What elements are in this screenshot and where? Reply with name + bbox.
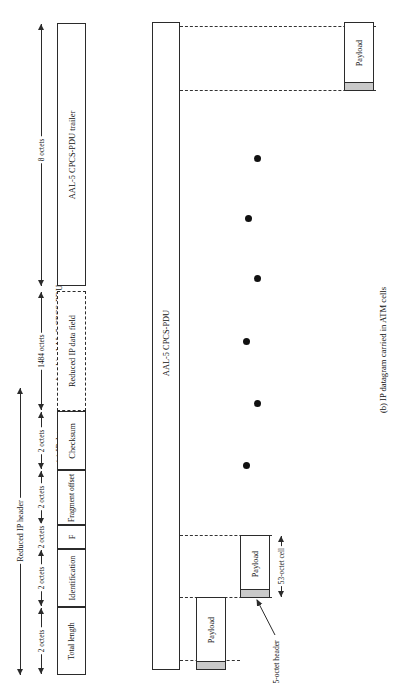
ellipsis-dot-c: [254, 275, 261, 282]
measure-checksum-v: [41, 412, 42, 469]
flags-box-label: F: [67, 535, 76, 540]
measure-checksum-v-label: 2 octets: [37, 428, 46, 455]
ellipsis-dot-b: [245, 215, 252, 222]
fragment-offset-box: Fragment offset: [57, 470, 86, 525]
flags-box: F: [57, 525, 86, 549]
trailer-layer: 8 octets AAL-5 CPCS-PDU trailer 1484 oct…: [0, 0, 413, 691]
measure-flags-v-label: 2 octets: [37, 524, 46, 551]
atm-cell-first-payload-label: Payload: [207, 617, 216, 643]
measure-flags-v: [41, 526, 42, 548]
checksum-box: Checksum: [57, 411, 86, 470]
aal5-cpcs-pdu-strip-label: AAL-5 CPCS-PDU: [162, 310, 171, 376]
identification-box-label: Identification: [67, 555, 76, 600]
atm-cell-last-payload-label: Payload: [355, 40, 364, 66]
measure-total-length-v-label: 2 octets: [37, 628, 46, 655]
aal5-cpcs-pdu-strip: AAL-5 CPCS-PDU: [152, 22, 180, 670]
projection-c: [180, 535, 272, 536]
total-length-box-label: Total length: [67, 622, 76, 659]
total-length-box: Total length: [57, 607, 86, 675]
ellipsis-dot-f: [243, 462, 250, 469]
measure-8-octets: [41, 24, 42, 286]
projection-e: [180, 660, 240, 661]
measure-8-octets-label: 8 octets: [37, 137, 46, 164]
projection-b: [180, 90, 376, 91]
measure-identification-v-label: 2 octets: [37, 565, 46, 592]
measure-53-octet-cell-v-label: 53-octet cell: [277, 546, 286, 586]
atm-cell-middle-header: [241, 589, 269, 597]
caption-panel-a: (a) IP datagram encapsulated in AAL-5 CP…: [54, 249, 64, 499]
aal5-cpcs-pdu-trailer-label: AAL-5 CPCS-PDU trailer: [67, 110, 76, 198]
five-octet-header-label: 5-octet header: [272, 640, 281, 683]
reduced-ip-header-measure: [20, 388, 21, 675]
measure-identification-v: [41, 550, 42, 606]
atm-cell-middle: Payload: [240, 535, 270, 598]
callout-arrow-line: [257, 600, 275, 635]
atm-cell-last-header: [345, 82, 373, 90]
caption-layer: (a) IP datagram encapsulated in AAL-5 CP…: [0, 0, 413, 691]
checksum-box-label: Checksum: [67, 423, 76, 458]
caption-panel-b: (b) IP datagram carried in ATM cells: [378, 225, 388, 475]
reduced-ip-data-field-box: Reduced IP data field: [57, 291, 86, 411]
aal5-cpcs-pdu-trailer-box: AAL-5 CPCS-PDU trailer: [57, 23, 86, 286]
measure-total-length-v: [41, 608, 42, 674]
measure-fragment-offset-v-label: 2 octets: [37, 484, 46, 511]
projection-a: [180, 26, 376, 27]
projection-d: [180, 597, 272, 598]
atm-cell-first-header: [197, 661, 225, 669]
ellipsis-dot-e: [254, 400, 261, 407]
atm-cell-middle-payload-label: Payload: [251, 551, 260, 577]
fragment-offset-box-label: Fragment offset: [67, 473, 75, 521]
reduced-ip-header-measure-label: Reduced IP header: [16, 498, 25, 564]
ellipsis-dot-a: [254, 155, 261, 162]
measure-1484-octets: [41, 292, 42, 410]
measure-53-octet-cell-v: [281, 536, 282, 597]
atm-cell-last: Payload: [344, 22, 374, 91]
identification-box: Identification: [57, 549, 86, 607]
atm-cell-first: Payload: [196, 597, 226, 670]
ellipsis-dot-d: [243, 338, 250, 345]
measure-fragment-offset-v: [41, 471, 42, 524]
five-octet-header-callout: [230, 590, 300, 665]
measure-1484-octets-label: 1484 octets: [37, 332, 46, 369]
reduced-ip-data-field-label: Reduced IP data field: [67, 315, 76, 387]
panel-b-layer: AAL-5 CPCS-PDU Payload Payload 53-octet …: [0, 0, 413, 691]
